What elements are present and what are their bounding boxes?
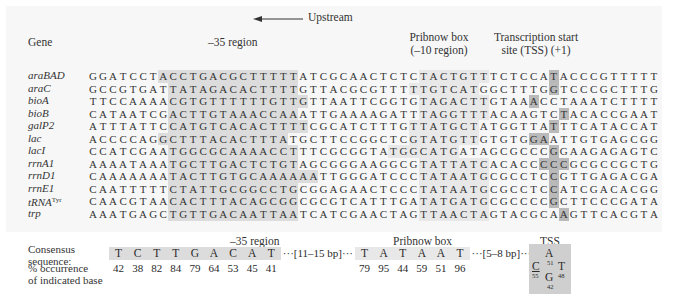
consensus-region-35-box: TCTTGACAT [109,247,281,260]
gene-name: bioB [28,107,65,120]
percent-value: 79 [355,262,374,274]
tss-percent-g: 42 [547,283,554,290]
region-35-nucleotide: A [248,208,258,221]
sequence-row: ATTTATTCCATGTCACACTTTTCGCATCTTTGTTATGCTA… [88,119,659,132]
nucleotide: C [619,208,629,221]
region-35-nucleotide: T [258,208,268,221]
region-35-nucleotide: T [198,208,208,221]
percent-value: 95 [374,262,393,274]
nucleotide: A [88,208,98,221]
consensus-pribnow-box: TATAAT [355,247,470,260]
gene-name: rrnE1 [28,182,65,195]
consensus-base: T [393,247,412,260]
tss-base-c: C [532,261,540,272]
consensus-base: A [412,247,431,260]
pribnow-header-line2: (–10 region) [407,44,471,57]
sequence-alignment: GGATCCTACCTGACGCTTTTTATCGCAACTCTCTACTGTT… [88,69,659,220]
nucleotide: T [118,208,128,221]
consensus-base: C [224,247,243,260]
nucleotide: T [499,208,509,221]
region-35-nucleotide: T [188,208,198,221]
nucleotide: T [579,208,589,221]
gene-name: bioA [28,94,65,107]
gene-name: araC [28,82,65,95]
tss-header: Transcription start site (TSS) (+1) [488,31,584,57]
tss-percent-a: 51 [547,259,554,266]
consensus-base: A [243,247,262,260]
percent-occurrence-row: 423882847964534541799544595196 [109,262,470,274]
pribnow-nucleotide: T [419,208,429,221]
upstream-arrow-icon [253,15,303,23]
nucleotide: T [388,208,398,221]
sequence-row: CATAATCGACTTGTAAACCAAATTGAAAAGATTTAGGTTT… [88,107,659,120]
percent-value: 84 [166,262,185,274]
consensus-base: T [147,247,166,260]
tss-base-g: G [545,272,553,283]
consensus-base: A [204,247,223,260]
percent-value: 45 [243,262,262,274]
region-35-nucleotide: A [218,208,228,221]
gene-name-text: lacI [28,144,45,156]
sequence-row: AAATGAGCTGTTGACAATTAATCATCGAACTAGTTAACTA… [88,207,659,220]
sequence-row: TTCCAAAACGTGTTTTTTGTTGTTAATTCGGTGTAGACTT… [88,94,659,107]
nucleotide: C [599,208,609,221]
nucleotide: G [489,208,499,221]
pct-label-line1: % occurrence [28,262,103,274]
gene-name-text: bioB [28,107,49,119]
percent-value: 59 [412,262,431,274]
nucleotide: G [529,208,539,221]
nucleotide: T [298,208,308,221]
gene-name-text: rrnA1 [28,157,54,169]
pribnow-box-header: Pribnow box (–10 region) [407,31,471,57]
nucleotide: G [409,208,419,221]
pribnow-nucleotide: T [429,208,439,221]
gene-name-text: trp [28,207,41,219]
consensus-base: T [166,247,185,260]
spacer-11-15bp: ···[11–15 bp]··· [281,247,355,260]
percent-value: 82 [147,262,166,274]
consensus-base: T [109,247,128,260]
sequence-row: CAACGTAACACTTTACAGCGGCGCGTCATTTGATATGATG… [88,194,659,207]
pribnow-header-line1: Pribnow box [407,31,471,44]
tss-base-t: T [558,261,565,272]
nucleotide: A [108,208,118,221]
nucleotide: A [98,208,108,221]
region-35-nucleotide: T [168,208,178,221]
sequence-row: CAATTTTTCTATTGCGGCCTGCGGAGAACTCCCTATAATG… [88,182,659,195]
percent-value: 53 [224,262,243,274]
gene-name: lacI [28,144,65,157]
consensus-base: T [355,247,374,260]
nucleotide: A [318,208,328,221]
gene-name-text: lac [28,132,41,144]
pribnow-nucleotide: A [479,208,489,221]
nucleotide: T [328,208,338,221]
nucleotide: G [569,208,579,221]
tss-base-a: A [545,248,553,259]
nucleotide: C [539,208,549,221]
sequence-row: ACCCCAGGCTTTACACTTTATGCTTCCGGCTCGTATGTTG… [88,132,659,145]
gene-name: lac [28,132,65,145]
gene-name-list: araBADaraCbioAbioBgalP2laclacIrrnA1rrnD1… [28,69,65,220]
tss-percent-t: 48 [558,272,565,279]
consensus-pribnow-label: Pribnow box [393,235,452,247]
percent-value: 38 [128,262,147,274]
region-35-nucleotide: G [208,208,218,221]
nucleotide: A [549,208,559,221]
gene-name: rrnD1 [28,169,65,182]
spacer-5-8bp: ···[5–8 bp]··· [470,247,534,260]
percent-occurrence-label: % occurrence of indicated base [28,262,103,286]
region-35-nucleotide: A [288,208,298,221]
consensus-base: A [431,247,450,260]
sequence-row: CAAAAAAATACTTGTGCAAAAAATTGGGATCCCTATAATG… [88,169,659,182]
gene-name-text: galP2 [28,119,54,131]
sequence-row: GGATCCTACCTGACGCTTTTTATCGCAACTCTCTACTGTT… [88,69,659,82]
gene-name-superscript: Tyr [52,196,62,204]
consensus-bases-row: TCTTGACAT···[11–15 bp]···TATAAT···[5–8 b… [109,247,533,260]
nucleotide: A [358,208,368,221]
sequence-row: GCCGTGATTATAGACACTTTTGTTACGCGTTTTTGTCATG… [88,82,659,95]
region-35-nucleotide: T [268,208,278,221]
gene-name: tRNATyr [28,194,65,207]
tss-percent-c: 55 [532,272,539,279]
nucleotide: C [519,208,529,221]
nucleotide: C [338,208,348,221]
